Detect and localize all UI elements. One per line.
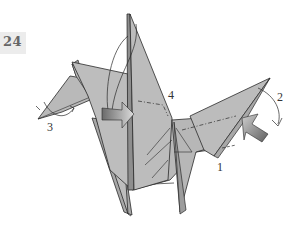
step-label-3: 3: [47, 120, 53, 135]
wing: [127, 14, 172, 190]
step-label-2: 2: [277, 90, 283, 105]
tail: [190, 78, 270, 158]
step-label-4: 4: [168, 88, 174, 103]
origami-diagram: [0, 0, 294, 229]
push-arrow-right: [242, 114, 268, 142]
step-label-1: 1: [217, 160, 223, 175]
